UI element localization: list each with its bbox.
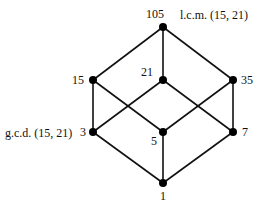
edge-7-1 xyxy=(163,132,233,183)
node-label-3: 3 xyxy=(80,125,86,139)
edge-105-35 xyxy=(163,27,233,80)
gcd-annotation: g.c.d. (15, 21) xyxy=(5,126,72,140)
node-21 xyxy=(159,76,167,84)
node-5 xyxy=(159,128,167,136)
node-label-105: 105 xyxy=(146,7,164,21)
node-15 xyxy=(89,76,97,84)
hasse-diagram: 1051521353571 l.c.m. (15, 21) g.c.d. (15… xyxy=(0,0,259,203)
node-1 xyxy=(159,179,167,187)
node-7 xyxy=(229,128,237,136)
node-label-35: 35 xyxy=(241,73,253,87)
edges xyxy=(93,27,233,183)
node-label-15: 15 xyxy=(72,73,84,87)
node-105 xyxy=(159,23,167,31)
node-label-7: 7 xyxy=(242,125,248,139)
node-label-21: 21 xyxy=(141,65,153,79)
node-label-1: 1 xyxy=(160,189,166,203)
lcm-annotation: l.c.m. (15, 21) xyxy=(180,8,248,22)
node-3 xyxy=(89,128,97,136)
node-35 xyxy=(229,76,237,84)
node-label-5: 5 xyxy=(151,134,157,148)
